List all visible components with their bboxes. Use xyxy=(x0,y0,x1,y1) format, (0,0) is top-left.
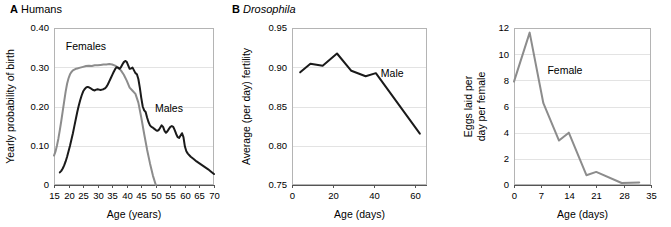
x-tick-label: 0 xyxy=(512,190,517,201)
y-tick-label: 6 xyxy=(504,101,509,112)
x-tick-label: 15 xyxy=(49,190,60,201)
y-axis-title: Eggs laid per xyxy=(462,75,474,137)
x-axis-title: Age (years) xyxy=(107,208,161,220)
panel-humans: A Humans 00.100.200.300.4015202530354045… xyxy=(0,0,228,227)
y-tick-label: 0 xyxy=(504,179,509,190)
x-tick-label: 50 xyxy=(151,190,162,201)
drosophila-male-chart: 0.750.800.850.900.950204060Age (days)Ave… xyxy=(228,0,438,227)
x-axis-title: Age (days) xyxy=(557,208,608,220)
humans-chart: 00.100.200.300.4015202530354045505560657… xyxy=(0,0,228,227)
y-axis-title: Yearly probability of birth xyxy=(4,49,16,164)
x-tick-label: 14 xyxy=(564,190,575,201)
series-label-male: Male xyxy=(381,67,404,79)
y-tick-label: 0.40 xyxy=(31,22,50,33)
x-tick-label: 35 xyxy=(646,190,657,201)
series-label-females: Females xyxy=(66,40,106,52)
x-tick-label: 28 xyxy=(619,190,630,201)
x-tick-label: 40 xyxy=(122,190,133,201)
x-tick-label: 60 xyxy=(410,190,421,201)
y-tick-label: 0.90 xyxy=(269,62,288,73)
series-label-males: Males xyxy=(155,102,183,114)
plot-frame xyxy=(515,29,651,185)
plot-frame xyxy=(293,29,427,185)
x-tick-label: 7 xyxy=(539,190,544,201)
y-tick-label: 0.30 xyxy=(31,62,50,73)
y-tick-label: 0.80 xyxy=(269,140,288,151)
x-tick-label: 40 xyxy=(369,190,380,201)
x-tick-label: 20 xyxy=(328,190,339,201)
y-tick-label: 0.95 xyxy=(269,22,288,33)
x-tick-label: 0 xyxy=(290,190,295,201)
series-line-females xyxy=(54,64,156,185)
x-axis-title: Age (days) xyxy=(334,208,385,220)
x-tick-label: 55 xyxy=(165,190,176,201)
x-tick-label: 70 xyxy=(209,190,220,201)
y-axis-title: day per female xyxy=(475,72,487,142)
y-tick-label: 8 xyxy=(504,75,509,86)
y-tick-label: 0.20 xyxy=(31,101,50,112)
y-tick-label: 4 xyxy=(504,127,509,138)
x-tick-label: 20 xyxy=(64,190,75,201)
series-label-female: Female xyxy=(547,64,582,76)
y-axis-title: Average (per day) fertility xyxy=(240,47,252,165)
x-tick-label: 65 xyxy=(194,190,205,201)
y-tick-label: 0.85 xyxy=(269,101,288,112)
y-tick-label: 2 xyxy=(504,153,509,164)
series-line-males xyxy=(60,61,214,174)
y-tick-label: 0 xyxy=(44,179,49,190)
panel-drosophila-male: B Drosophila 0.750.800.850.900.950204060… xyxy=(228,0,438,227)
x-tick-label: 35 xyxy=(107,190,118,201)
drosophila-female-chart: 0246810120714212835Age (days)Eggs laid p… xyxy=(438,0,671,227)
y-tick-label: 0.75 xyxy=(269,179,288,190)
y-tick-label: 0.10 xyxy=(31,140,50,151)
x-tick-label: 25 xyxy=(78,190,89,201)
y-tick-label: 10 xyxy=(498,49,509,60)
y-tick-label: 12 xyxy=(498,22,509,33)
x-tick-label: 45 xyxy=(136,190,147,201)
x-tick-label: 21 xyxy=(591,190,602,201)
figure-container: A Humans 00.100.200.300.4015202530354045… xyxy=(0,0,671,227)
x-tick-label: 30 xyxy=(93,190,104,201)
panel-drosophila-female: 0246810120714212835Age (days)Eggs laid p… xyxy=(438,0,671,227)
x-tick-label: 60 xyxy=(180,190,191,201)
series-line-male xyxy=(300,54,420,134)
